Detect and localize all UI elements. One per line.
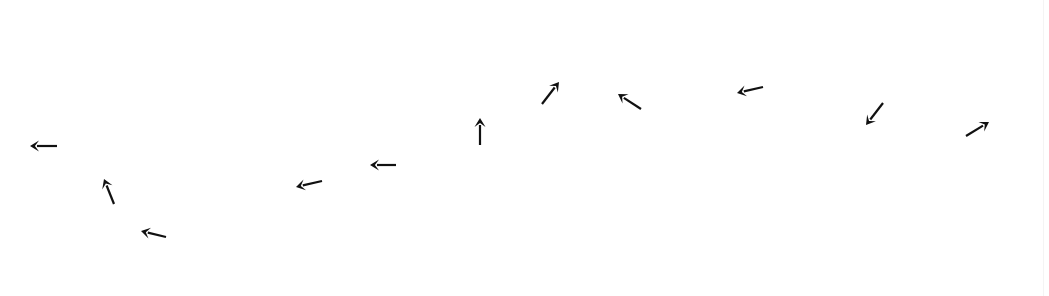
right-edge-divider [1043, 0, 1044, 296]
diagram-background [0, 0, 1049, 296]
arrow-field-diagram [0, 0, 1049, 296]
